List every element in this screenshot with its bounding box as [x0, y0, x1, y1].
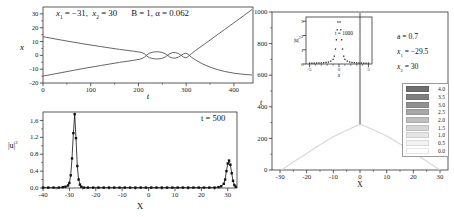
legend-swatch [406, 117, 429, 123]
annotation-x2: x2 = 30 [397, 62, 428, 77]
x-tick-label: -20 [91, 191, 101, 198]
legend-swatch [406, 140, 429, 146]
axis-frame [306, 17, 372, 64]
legend-swatch [406, 86, 429, 92]
panel-a-annotation: x1 = −31, x2 = 30 B = 1, α = 0.062 [56, 8, 189, 20]
x-tick-label: -10 [118, 191, 128, 198]
y-tick-label: 0 [35, 51, 39, 58]
y-tick-label: 200 [257, 135, 268, 142]
legend-entry: 2.5 [406, 109, 445, 116]
legend-value: 0.0 [438, 148, 445, 154]
annotation-parameters: B = 1, α = 0.062 [131, 8, 189, 20]
legend-swatch [406, 148, 429, 154]
panel-b-y-axis-label: |u|2 [8, 141, 18, 150]
y-tick-label: 1.6 [30, 117, 39, 124]
panel-a-x-axis-label: t [43, 92, 253, 101]
legend-entry: 2.0 [406, 116, 445, 123]
scientific-figure: 0100200300400-20-100102030 x1 = −31, x2 … [0, 0, 454, 217]
y-tick-label: 0.0 [30, 184, 39, 191]
inset-x-axis-label: x [306, 73, 372, 79]
colorbar-legend: 4.03.53.02.52.01.51.00.50.0 [402, 83, 449, 157]
legend-value: 4.0 [438, 86, 445, 92]
legend-swatch [406, 109, 429, 115]
legend-entry: 0.5 [406, 140, 445, 147]
x-tick-label: -30 [275, 173, 285, 180]
annotation-x1: x1 = −29.5 [397, 47, 428, 62]
legend-swatch [406, 102, 429, 108]
panel-c-y-axis-label: t [260, 99, 262, 107]
x-tick-label: -30 [65, 191, 75, 198]
legend-entry: 3.0 [406, 101, 445, 108]
y-tick-label: 1000 [254, 8, 268, 15]
y-tick-label: -20 [29, 79, 39, 86]
annotation-initial-positions: x1 = −31, x2 = 30 [56, 8, 117, 20]
panel-c-x-axis-label: X [272, 181, 448, 189]
y-tick-label: -10 [29, 65, 39, 72]
y-tick-label: 20 [32, 24, 39, 31]
y-tick-label: 0 [264, 166, 268, 173]
profile-t500 [43, 114, 236, 188]
y-tick-label: 400 [257, 103, 268, 110]
legend-entry: 3.5 [406, 93, 445, 100]
y-tick-label: 600 [257, 71, 268, 78]
inset-y-axis-label: |u|2 [294, 37, 301, 43]
y-tick-label: 2 [301, 34, 304, 39]
legend-value: 3.5 [438, 94, 445, 100]
inset-annotation: t = 1000 [335, 30, 353, 36]
x-tick-label: 20 [198, 191, 205, 198]
legend-swatch [406, 125, 429, 131]
panel-spacetime-density: -30-20-10010203002004006008001000 -50501… [258, 0, 454, 217]
x-tick-label: 20 [410, 173, 417, 180]
x-tick-label: -40 [38, 191, 48, 198]
y-tick-label: 1 [301, 48, 304, 53]
soliton-trajectory-2 [43, 52, 252, 76]
y-tick-label: 0.4 [30, 167, 39, 174]
legend-entry: 1.0 [406, 132, 445, 139]
legend-value: 1.0 [438, 132, 445, 138]
legend-swatch [406, 94, 429, 100]
panel-b-annotation: ​t = 500 [201, 113, 225, 123]
legend-entry: 0.0 [406, 147, 445, 154]
y-tick-label: 0.8 [30, 150, 39, 157]
panel-profile-t500: -40-30-20-1001020300.00.40.81.21.6 ​t = … [0, 105, 260, 217]
y-tick-label: 10 [32, 38, 39, 45]
y-tick-label: 3 [301, 19, 304, 24]
x-tick-label: 5 [367, 67, 370, 72]
legend-value: 2.5 [438, 109, 445, 115]
x-tick-label: 30 [437, 173, 444, 180]
x-tick-label: 0 [147, 191, 151, 198]
x-tick-label: 0 [358, 173, 362, 180]
x-tick-label: 10 [172, 191, 179, 198]
panel-trajectories: 0100200300400-20-100102030 x1 = −31, x2 … [0, 0, 260, 105]
annotation-a: a = 0.7 [397, 32, 428, 47]
x-tick-label: -5 [307, 67, 312, 72]
x-tick-label: 0 [338, 67, 341, 72]
x-tick-label: -20 [302, 173, 312, 180]
legend-value: 2.0 [438, 117, 445, 123]
x-tick-label: 10 [383, 173, 390, 180]
y-tick-label: 1.2 [30, 133, 39, 140]
panel-c-inset-plot: -5050123 [293, 13, 378, 79]
legend-value: 3.0 [438, 102, 445, 108]
y-tick-label: 0 [301, 62, 304, 67]
x-tick-label: 30 [224, 191, 231, 198]
y-tick-label: 800 [257, 40, 268, 47]
incoming-soliton-left [281, 125, 360, 171]
x-tick-label: -10 [329, 173, 339, 180]
y-tick-label: 30 [32, 10, 39, 17]
legend-swatch [406, 132, 429, 138]
legend-value: 0.5 [438, 140, 445, 146]
legend-entry: 4.0 [406, 86, 445, 93]
panel-a-y-axis-label: x [20, 43, 24, 52]
legend-entry: 1.5 [406, 124, 445, 131]
panel-c-annotations: a = 0.7 x1 = −29.5 x2 = 30 [397, 32, 428, 77]
panel-b-x-axis-label: X [43, 202, 237, 211]
legend-value: 1.5 [438, 125, 445, 131]
